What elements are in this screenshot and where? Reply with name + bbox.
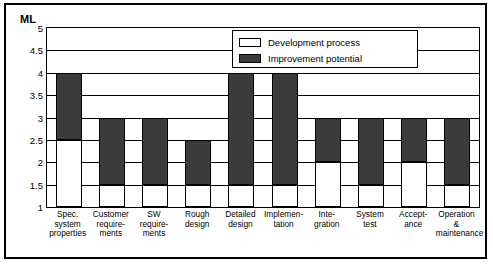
bar-development <box>185 185 211 207</box>
legend-swatch-improvement <box>239 54 261 63</box>
y-tick-label: 1 <box>38 202 43 213</box>
x-tick-label-line: design <box>177 220 218 230</box>
bar-improvement <box>185 140 211 185</box>
bar-development <box>142 185 168 207</box>
bar-group <box>185 28 211 207</box>
x-tick-label-line: ments <box>90 229 131 239</box>
bar-improvement <box>358 118 384 185</box>
bar-development <box>315 162 341 207</box>
x-tick-label-line: design <box>220 220 261 230</box>
bar-improvement <box>401 118 427 163</box>
bar-development <box>56 140 82 207</box>
x-tick-label-line: ments <box>133 229 174 239</box>
x-tick-label: Systemtest <box>349 210 390 229</box>
x-tick-label-line: maintenance <box>436 229 477 239</box>
x-tick-label-line: gration <box>306 220 347 230</box>
x-tick-label: Implemen-tation <box>263 210 304 229</box>
bar-improvement <box>272 73 298 185</box>
x-tick-label: Accept-ance <box>393 210 434 229</box>
bar-group <box>142 28 168 207</box>
chart-frame: ML 11.522.533.544.55 Development process… <box>4 3 487 259</box>
bar-improvement <box>315 118 341 163</box>
y-tick-label: 4 <box>38 67 43 78</box>
legend-label-development: Development process <box>268 37 360 48</box>
legend-swatch-development <box>239 38 261 47</box>
bar-group <box>56 28 82 207</box>
bar-improvement <box>56 73 82 140</box>
bar-development <box>358 185 384 207</box>
x-tick-label: Customerrequire-ments <box>90 210 131 239</box>
x-tick-label: Spec.systemproperties <box>47 210 88 239</box>
legend: Development process Improvement potentia… <box>232 30 418 68</box>
y-tick-label: 2.5 <box>30 134 43 145</box>
bar-development <box>444 185 470 207</box>
x-tick-label-line: tation <box>263 220 304 230</box>
bar-improvement <box>99 118 125 185</box>
y-tick-label: 3 <box>38 112 43 123</box>
y-tick-label: 3.5 <box>30 90 43 101</box>
legend-label-improvement: Improvement potential <box>268 53 362 64</box>
x-tick-label: Inte-gration <box>306 210 347 229</box>
y-tick-label: 1.5 <box>30 179 43 190</box>
bar-improvement <box>444 118 470 185</box>
y-tick-label: 4.5 <box>30 45 43 56</box>
x-tick-label: Detaileddesign <box>220 210 261 229</box>
x-tick-label-line: test <box>349 220 390 230</box>
x-tick-label: SWrequire-ments <box>133 210 174 239</box>
bar-development <box>401 162 427 207</box>
x-tick-label-line: properties <box>47 229 88 239</box>
legend-item-improvement: Improvement potential <box>239 51 411 65</box>
bar-development <box>228 185 254 207</box>
bar-development <box>99 185 125 207</box>
bar-improvement <box>142 118 168 185</box>
x-axis-labels: Spec.systempropertiesCustomerrequire-men… <box>46 210 480 256</box>
y-tick-label: 5 <box>38 23 43 34</box>
bar-group <box>444 28 470 207</box>
x-tick-label-line: Operation & <box>436 210 477 229</box>
bar-group <box>99 28 125 207</box>
bar-development <box>272 185 298 207</box>
y-axis-title: ML <box>20 13 36 25</box>
x-tick-label-line: ance <box>393 220 434 230</box>
x-tick-label: Roughdesign <box>177 210 218 229</box>
bar-improvement <box>228 73 254 185</box>
x-tick-label: Operation &maintenance <box>436 210 477 239</box>
chart-page: ML 11.522.533.544.55 Development process… <box>0 0 493 265</box>
y-tick-label: 2 <box>38 157 43 168</box>
legend-item-development: Development process <box>239 35 411 49</box>
